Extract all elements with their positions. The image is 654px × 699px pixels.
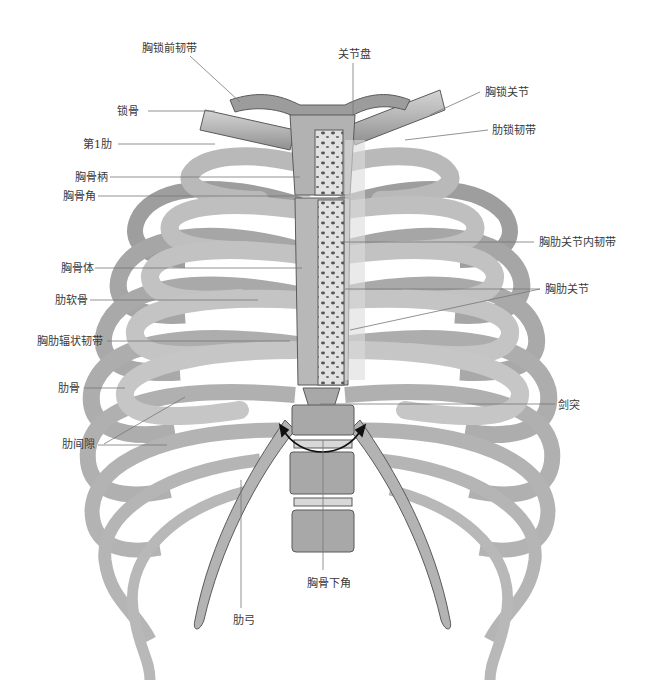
label-manubrium: 胸骨柄 [75,171,108,184]
label-radiate-sternocostal-ligament: 胸肋辐状韧带 [37,335,103,348]
label-sternoclavicular-anterior-ligament: 胸锁前韧带 [142,42,197,55]
label-clavicle: 锁骨 [117,105,139,118]
label-sternocostal-joint: 胸肋关节 [545,283,589,296]
label-rib: 肋骨 [58,382,80,395]
label-articular-disc: 关节盘 [338,48,371,61]
label-intercostal-space: 肋间隙 [62,438,95,451]
label-xiphoid-process: 剑突 [558,399,580,412]
label-costoclavicular-ligament: 肋锁韧带 [492,124,536,137]
label-infrasternal-angle: 胸骨下角 [307,577,351,590]
vertebrae [290,405,354,552]
sternum [290,115,365,420]
label-sternoclavicular-joint: 胸锁关节 [485,86,529,99]
label-first-rib: 第1肋 [83,138,112,151]
label-intra-articular-sternocostal-ligament: 胸肋关节内韧带 [539,236,616,249]
rib-cage-illustration [0,0,654,699]
label-sternal-angle: 胸骨角 [63,190,96,203]
label-sternal-body: 胸骨体 [61,262,94,275]
thoracic-cage-diagram: 胸锁前韧带 锁骨 第1肋 胸骨柄 胸骨角 胸骨体 肋软骨 胸肋辐状韧带 肋骨 肋… [0,0,654,699]
label-costal-cartilage: 肋软骨 [55,294,88,307]
label-costal-arch: 肋弓 [233,614,255,627]
